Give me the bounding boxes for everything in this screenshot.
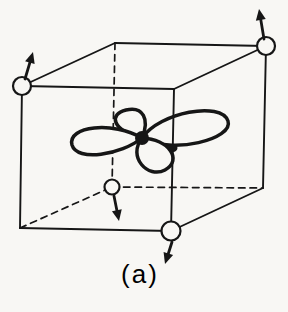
- cube-edge-front_bottom_left--front_bottom_right: [20, 228, 171, 231]
- arrow-front-top-left-head: [25, 52, 35, 64]
- cube-edge-back_top_right--back_bottom_right: [263, 46, 266, 188]
- ink-spot: [169, 144, 178, 152]
- ion-back-top-right: [257, 37, 275, 55]
- cube-edge-back_top_left--back_top_right: [115, 43, 266, 46]
- ion-back-bottom-left: [105, 180, 120, 195]
- central-atom-nucleus: [135, 131, 149, 145]
- cube-edge-front_top_left--back_top_left: [22, 43, 115, 86]
- ion-front-bottom-right: [162, 222, 181, 241]
- cube-edge-back_top_left--back_bottom_left: [112, 43, 115, 187]
- arrow-front-bottom-right-head: [164, 252, 174, 264]
- cube-edge-front_top_left--front_bottom_left: [20, 86, 22, 228]
- cube-edge-front_top_right--back_top_right: [174, 46, 266, 89]
- figure-panel: (a): [0, 0, 288, 312]
- cube-edge-back_bottom_left--back_bottom_right: [112, 187, 263, 188]
- arrow-back-top-right-head: [256, 9, 266, 21]
- d-orbital-lobe-left: [72, 128, 142, 155]
- ion-front-top-left: [13, 77, 31, 95]
- cube-edge-front_bottom_left--back_bottom_left: [20, 187, 112, 228]
- cube-edge-front_bottom_right--back_bottom_right: [171, 188, 263, 231]
- figure-label: (a): [121, 259, 159, 290]
- arrow-back-bottom-left-head: [112, 209, 122, 221]
- cube-edge-front_top_left--front_top_right: [22, 86, 174, 89]
